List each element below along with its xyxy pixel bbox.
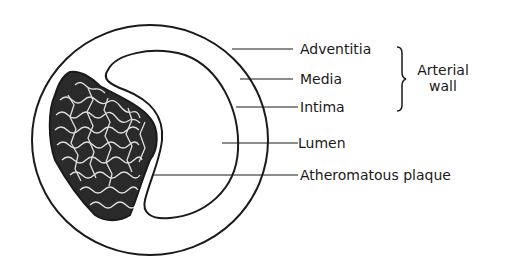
label-media: Media [300, 71, 342, 87]
atheromatous-plaque [50, 72, 157, 221]
label-intima: Intima [300, 99, 345, 115]
arterial-wall-bracket [397, 47, 406, 111]
label-arterial-wall: Arterial wall [408, 62, 478, 94]
label-arterial: Arterial [408, 62, 478, 78]
artery-cross-section [0, 0, 517, 270]
leader-lines [152, 49, 298, 175]
label-atheromatous-plaque: Atheromatous plaque [300, 167, 451, 183]
label-lumen: Lumen [298, 135, 346, 151]
label-adventitia: Adventitia [300, 41, 371, 57]
label-wall: wall [408, 78, 478, 94]
